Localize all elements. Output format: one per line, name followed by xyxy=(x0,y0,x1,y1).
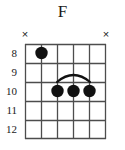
chord-diagram-card: F × × 8 9 10 11 12 xyxy=(0,0,125,150)
fret-number-8: 8 xyxy=(12,47,18,59)
finger-dot-string3-fret10 xyxy=(51,85,63,97)
chord-diagram-svg: × × 8 9 10 11 12 xyxy=(0,0,125,150)
fret-number-column: 8 9 10 11 12 xyxy=(6,47,18,135)
fret-number-12: 12 xyxy=(6,123,17,135)
finger-dots-group xyxy=(35,47,95,97)
finger-dot-string2-fret8 xyxy=(35,47,47,59)
mute-marker-string-6: × xyxy=(103,28,109,40)
fret-number-10: 10 xyxy=(6,85,18,97)
mute-marker-string-1: × xyxy=(22,28,28,40)
finger-dot-string4-fret10 xyxy=(67,85,79,97)
string-markers-row: × × xyxy=(22,28,109,40)
finger-dot-string5-fret10 xyxy=(83,85,95,97)
fret-number-11: 11 xyxy=(6,104,17,116)
fret-number-9: 9 xyxy=(12,66,18,78)
